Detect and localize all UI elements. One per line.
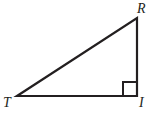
vertex-label-T: T bbox=[3, 96, 11, 110]
vertex-label-R: R bbox=[137, 2, 146, 16]
right-angle-marker-icon bbox=[123, 82, 137, 96]
vertex-label-I: I bbox=[139, 96, 144, 110]
right-triangle-figure: R T I bbox=[0, 0, 163, 119]
triangle-shape-TIR bbox=[17, 18, 137, 96]
